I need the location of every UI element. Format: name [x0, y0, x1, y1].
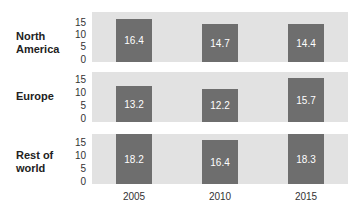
row-label-europe: Europe — [16, 90, 54, 103]
ytick: 10 — [66, 87, 86, 98]
row-label-north-america: North America — [16, 30, 59, 56]
ytick: 5 — [66, 100, 86, 111]
bar-europe-2005: 13.2 — [116, 86, 152, 122]
xlabel-2015: 2015 — [286, 191, 326, 202]
bar-north-america-2015: 14.4 — [288, 24, 324, 62]
label-line: world — [16, 162, 53, 175]
ytick: 0 — [66, 176, 86, 187]
label-line: Rest of — [16, 149, 53, 162]
ytick: 15 — [66, 74, 86, 85]
ytick: 5 — [66, 163, 86, 174]
bar-europe-2010: 12.2 — [202, 89, 238, 122]
label-line: Europe — [16, 90, 54, 103]
row-label-rest-of-world: Rest of world — [16, 149, 53, 175]
label-line: North — [16, 30, 59, 43]
bar-north-america-2010: 14.7 — [202, 24, 238, 62]
ytick: 15 — [66, 17, 86, 28]
ytick: 0 — [66, 113, 86, 124]
xlabel-2010: 2010 — [200, 191, 240, 202]
ytick: 15 — [66, 137, 86, 148]
ytick: 10 — [66, 29, 86, 40]
label-line: America — [16, 43, 59, 56]
bar-rest-of-world-2010: 16.4 — [202, 140, 238, 184]
ytick: 5 — [66, 41, 86, 52]
bar-rest-of-world-2015: 18.3 — [288, 134, 324, 184]
bar-north-america-2005: 16.4 — [116, 19, 152, 62]
xlabel-2005: 2005 — [114, 191, 154, 202]
ytick: 0 — [66, 54, 86, 65]
ytick: 10 — [66, 150, 86, 161]
bar-rest-of-world-2005: 18.2 — [116, 134, 152, 184]
bar-europe-2015: 15.7 — [288, 78, 324, 122]
